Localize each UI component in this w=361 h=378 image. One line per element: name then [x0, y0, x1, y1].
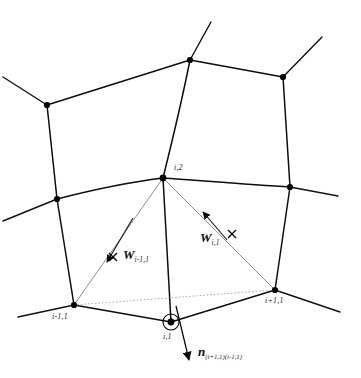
node-label-i-plus-1-1: i+1,1	[265, 297, 284, 305]
primal-mesh-edges	[47, 60, 290, 322]
vector-label-normal: n (i+1,1)(i-1,1)	[198, 342, 242, 360]
node-label-i-minus-1-1: i-1,1	[52, 313, 68, 321]
normal-subscript: (i+1,1)(i-1,1)	[205, 353, 242, 360]
node-label-i-1: i,1	[163, 333, 172, 341]
vertex-mid-left	[54, 196, 60, 202]
vertex-mid-right	[287, 184, 293, 190]
vector-label-w-left: W i-1,1	[123, 245, 149, 264]
w-left-subscript: i-1,1	[135, 255, 149, 264]
mesh-graphic	[0, 0, 361, 378]
vertex-upper-mid	[187, 57, 193, 63]
mesh-diagram-figure: i,2 i-1,1 i,1 i+1,1 W i-1,1 W i,1 n (i+1…	[0, 0, 361, 378]
w-right-symbol: W	[200, 230, 212, 246]
vertex-upper-right	[280, 74, 286, 80]
vector-label-w-right: W i,1	[200, 228, 220, 247]
vertex-upper-left	[44, 102, 50, 108]
node-label-i2: i,2	[174, 164, 183, 172]
normal-symbol: n	[198, 344, 205, 360]
w-left-symbol: W	[123, 247, 135, 263]
w-right-subscript: i,1	[212, 238, 220, 247]
vertex-bottom-left	[71, 302, 77, 308]
cross-marker-right	[228, 230, 236, 238]
vertex-center-i2	[160, 175, 167, 182]
vector-normal-arrow	[176, 306, 189, 360]
vertex-bottom-right	[272, 287, 278, 293]
dual-median-lines	[74, 178, 275, 305]
vertex-bottom-center	[168, 319, 175, 326]
